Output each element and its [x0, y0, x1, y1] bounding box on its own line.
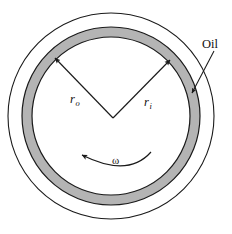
figure-root: Oil ro ri ω: [0, 0, 232, 234]
inner-radius-symbol: r: [144, 95, 149, 109]
outer-radius-subscript: o: [75, 98, 79, 108]
oil-label: Oil: [202, 37, 219, 51]
journal-bearing-diagram: Oil ro ri ω: [0, 0, 232, 234]
outer-radius-symbol: r: [70, 92, 75, 106]
angular-velocity-label: ω: [112, 154, 119, 166]
